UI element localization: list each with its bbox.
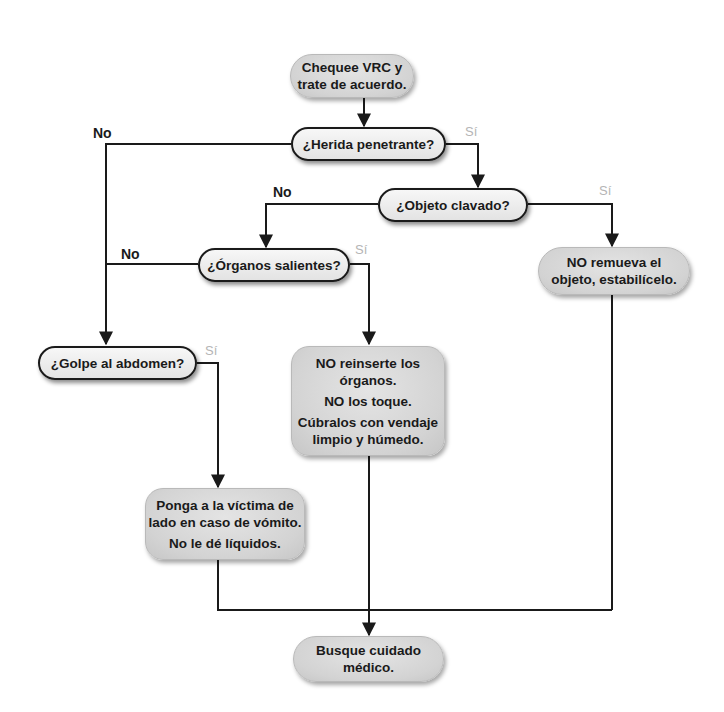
node-chequee-vrc: Chequee VRC y trate de acuerdo. bbox=[290, 54, 414, 98]
label-organos-no: No bbox=[121, 246, 140, 262]
node-text: ¿Órganos salientes? bbox=[207, 257, 341, 274]
node-no-reinserte: NO reinserte los órganos. NO los toque. … bbox=[291, 346, 445, 456]
edge-golpe-ponga bbox=[197, 363, 218, 487]
label-golpe-si: Sí bbox=[205, 343, 217, 358]
label-organos-si: Sí bbox=[355, 242, 367, 257]
node-text: Busque cuidado bbox=[316, 642, 421, 659]
node-text: Ponga a la víctima de bbox=[156, 497, 293, 514]
label-herida-si: Sí bbox=[465, 124, 477, 139]
node-text: órganos. bbox=[339, 372, 396, 389]
decision-objeto-clavado: ¿Objeto clavado? bbox=[378, 188, 528, 222]
node-text: objeto, estabilícelo. bbox=[551, 271, 676, 288]
edge-herida-golpe bbox=[106, 144, 291, 344]
edge-herida-objeto bbox=[446, 144, 478, 187]
label-herida-no: No bbox=[93, 125, 112, 141]
node-text: Chequee VRC y bbox=[302, 59, 403, 76]
node-busque-cuidado: Busque cuidado médico. bbox=[293, 636, 444, 682]
node-text: ¿Golpe al abdomen? bbox=[51, 355, 185, 372]
decision-golpe-abdomen: ¿Golpe al abdomen? bbox=[38, 346, 197, 380]
node-text: NO remueva el bbox=[567, 254, 662, 271]
node-text: NO los toque. bbox=[324, 393, 412, 410]
node-text: No le dé líquidos. bbox=[169, 535, 281, 552]
node-text: lado en caso de vómito. bbox=[148, 514, 301, 531]
node-text: ¿Objeto clavado? bbox=[396, 197, 509, 214]
label-objeto-si: Sí bbox=[599, 183, 611, 198]
node-text: ¿Herida penetrante? bbox=[303, 136, 434, 153]
edge-organos-noreinserte bbox=[350, 264, 369, 344]
node-ponga-victima: Ponga a la víctima de lado en caso de vó… bbox=[145, 488, 305, 560]
node-text: limpio y húmedo. bbox=[312, 431, 423, 448]
node-text: médico. bbox=[343, 659, 394, 676]
edge-objeto-noremueva bbox=[528, 204, 612, 246]
node-no-remueva: NO remueva el objeto, estabilícelo. bbox=[538, 247, 690, 295]
node-text: Cúbralos con vendaje bbox=[298, 414, 438, 431]
edge-ponga-join bbox=[218, 560, 612, 610]
edge-objeto-organos bbox=[266, 204, 378, 247]
node-text: NO reinserte los bbox=[316, 355, 420, 372]
decision-organos-salientes: ¿Órganos salientes? bbox=[198, 248, 350, 282]
label-objeto-no: No bbox=[273, 184, 292, 200]
flowchart: Chequee VRC y trate de acuerdo. ¿Herida … bbox=[0, 0, 724, 712]
node-text: trate de acuerdo. bbox=[298, 76, 407, 93]
decision-herida-penetrante: ¿Herida penetrante? bbox=[291, 127, 446, 161]
